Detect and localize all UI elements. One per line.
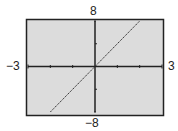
- plot-area: [0, 0, 178, 131]
